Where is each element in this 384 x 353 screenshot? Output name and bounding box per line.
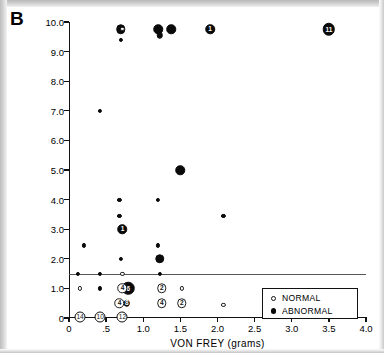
- count-marker: 10: [95, 311, 106, 322]
- data-point-abnormal: [155, 254, 165, 264]
- data-point-count-label: 2: [160, 285, 164, 292]
- data-point-abnormal: [98, 272, 102, 276]
- x-tick: [217, 317, 218, 322]
- x-tick-label: 3.5: [322, 323, 335, 334]
- y-tick-label: 9.0: [51, 46, 64, 57]
- data-point-abnormal: [119, 38, 123, 42]
- y-tick: [64, 169, 69, 170]
- data-point-abnormal: [76, 272, 80, 276]
- data-point-abnormal: 11: [323, 23, 336, 36]
- y-tick-label: 8.0: [51, 76, 64, 87]
- figure-panel: B 01.02.03.04.05.06.07.08.09.010.0 0.51.…: [0, 0, 384, 353]
- reference-line-1p5: [69, 274, 366, 275]
- data-point-count-label: 4: [160, 300, 164, 307]
- x-tick-label: 3.0: [285, 323, 298, 334]
- data-point-abnormal: [157, 272, 161, 276]
- open-circle-icon: [268, 296, 279, 301]
- y-tick: [64, 199, 69, 200]
- y-tick: [64, 51, 69, 52]
- data-point-count-label: 1: [121, 226, 125, 233]
- legend-label-abnormal: ABNORMAL: [282, 306, 333, 316]
- data-point-abnormal: [167, 25, 177, 35]
- y-tick-label: 10.0: [46, 17, 65, 28]
- data-point-count-label: 4: [118, 300, 122, 307]
- x-tick-label: 1.0: [137, 323, 150, 334]
- y-tick-label: 4.0: [51, 194, 64, 205]
- data-point-normal: 2: [157, 284, 167, 294]
- x-axis-title: VON FREY (grams): [69, 338, 366, 349]
- y-tick-label: 7.0: [51, 105, 64, 116]
- data-point-count-label: 2: [180, 300, 184, 307]
- data-point-count-label: 4: [121, 285, 125, 292]
- scan-edge-right: [379, 0, 384, 353]
- data-point-abnormal: [119, 257, 123, 261]
- data-point-abnormal: [176, 165, 186, 175]
- y-tick-label: 5.0: [51, 165, 64, 176]
- data-point-normal: 4: [157, 298, 167, 308]
- x-axis-tick-labels: 0.51.01.52.02.53.03.54.0: [69, 323, 366, 337]
- y-tick: [64, 140, 69, 141]
- y-tick: [64, 21, 69, 22]
- data-point-count-label: 11: [325, 26, 332, 33]
- data-point-normal: [180, 286, 184, 290]
- y-tick-label: 6.0: [51, 135, 64, 146]
- legend-entry-normal: NORMAL: [268, 292, 357, 304]
- y-tick: [64, 81, 69, 82]
- data-point-abnormal: [156, 32, 163, 39]
- data-point-count-label: 8: [125, 300, 129, 307]
- count-marker: 14: [75, 311, 86, 322]
- x-tick: [180, 317, 181, 322]
- data-point-count-label: 1: [208, 26, 212, 33]
- x-tick-label: 2.5: [248, 323, 261, 334]
- y-tick-label: 1.0: [51, 283, 64, 294]
- y-tick-label: 3.0: [51, 224, 64, 235]
- data-point-abnormal: 1: [205, 25, 215, 35]
- x-tick-label: 2.0: [211, 323, 224, 334]
- scan-edge-bottom: [0, 349, 384, 353]
- data-point-normal: 4: [115, 298, 125, 308]
- data-point-normal: [78, 286, 82, 290]
- data-point-normal: 2: [177, 298, 187, 308]
- legend: NORMAL ABNORMAL: [262, 288, 358, 319]
- data-point-normal: [221, 303, 225, 307]
- data-point-abnormal: [82, 243, 86, 247]
- count-marker: 12: [117, 311, 128, 322]
- legend-entry-abnormal: ABNORMAL: [268, 305, 357, 317]
- filled-circle-icon: [268, 308, 279, 314]
- x-tick: [365, 317, 366, 322]
- scan-edge-top: [0, 0, 384, 7]
- data-point-abnormal: [98, 286, 102, 290]
- data-point-abnormal: [156, 198, 160, 202]
- y-tick: [64, 258, 69, 259]
- scan-edge-left: [0, 0, 7, 353]
- y-axis-tick-labels: 01.02.03.04.05.06.07.08.09.010.0: [24, 22, 64, 318]
- x-tick: [68, 317, 69, 322]
- data-point-abnormal: [221, 214, 225, 218]
- data-point-abnormal: 8: [124, 300, 131, 307]
- data-point-abnormal: [98, 109, 102, 113]
- y-tick: [64, 288, 69, 289]
- x-tick: [143, 317, 144, 322]
- data-point-normal: [120, 272, 124, 276]
- scatter-plot-area: 11116814101242442: [69, 22, 366, 318]
- y-tick: [64, 229, 69, 230]
- y-tick: [64, 110, 69, 111]
- data-point-abnormal: [117, 198, 121, 202]
- x-tick-label: 4.0: [359, 323, 372, 334]
- x-tick-label: .5: [102, 323, 110, 334]
- x-tick: [254, 317, 255, 322]
- data-point-abnormal: 1: [118, 224, 128, 234]
- data-point-abnormal: [117, 214, 121, 218]
- y-tick-label: 2.0: [51, 253, 64, 264]
- x-tick-label: 0: [66, 323, 71, 334]
- legend-label-normal: NORMAL: [282, 293, 321, 303]
- x-tick: [105, 317, 106, 322]
- x-tick-label: 1.5: [174, 323, 187, 334]
- data-point-abnormal: [156, 243, 160, 247]
- data-point-normal: 4: [118, 284, 128, 294]
- panel-label: B: [10, 9, 24, 28]
